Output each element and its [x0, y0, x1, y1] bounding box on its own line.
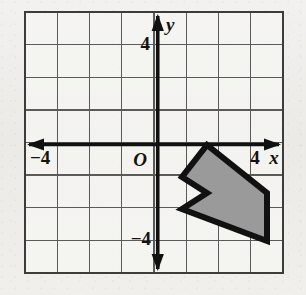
x-axis-tick-label-4: 4: [250, 147, 260, 168]
origin-label: O: [133, 149, 147, 170]
coordinate-plane-figure: 4 −4 −4 4 y x O: [0, 0, 306, 295]
x-axis-label: x: [268, 147, 279, 168]
y-axis-tick-label-4: 4: [141, 33, 151, 54]
diagram-stage: 4 −4 −4 4 y x O: [0, 0, 306, 295]
x-axis-tick-label-neg4: −4: [30, 147, 51, 168]
y-axis-tick-label-neg4: −4: [131, 228, 152, 249]
y-axis-label: y: [164, 14, 175, 35]
